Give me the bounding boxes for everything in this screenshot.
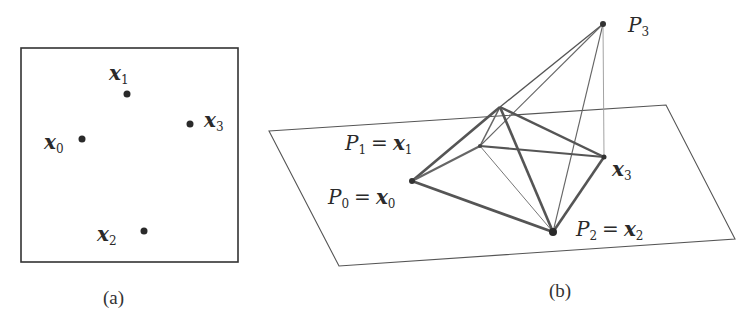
point-x0 <box>79 136 86 143</box>
edge-P3-Q <box>500 24 603 107</box>
edge-P3-P2 <box>553 24 603 232</box>
panel-a-box <box>21 48 238 262</box>
panel-b: P3 P1=x1 P0=x0 P2=x2 x3 (b) <box>269 13 735 302</box>
label-P3: P3 <box>627 13 649 39</box>
label-x2: x2 <box>96 222 117 248</box>
vertex-P0 <box>409 178 415 184</box>
caption-b: (b) <box>549 280 571 302</box>
label-x3-b: x3 <box>611 157 632 183</box>
point-x1 <box>124 91 131 98</box>
edge-Q-P2 <box>500 107 553 232</box>
label-x1: x1 <box>108 61 129 87</box>
point-x2 <box>141 228 148 235</box>
vertex-x3 <box>602 155 607 160</box>
vertex-P2 <box>549 228 557 236</box>
label-x0: x0 <box>43 130 64 156</box>
edge-P1-Q <box>480 107 500 146</box>
label-P0-eq-x0: P0=x0 <box>327 185 395 211</box>
vertex-P3 <box>600 21 606 27</box>
caption-a: (a) <box>103 287 124 309</box>
edge-P3-x3 <box>603 24 604 157</box>
edge-P0-Q <box>412 107 500 181</box>
figure: x1 x3 x0 x2 (a) P3 P1=x1 P0=x0 <box>0 0 749 327</box>
point-x3 <box>187 121 194 128</box>
label-P2-eq-x2: P2=x2 <box>575 217 643 243</box>
label-P1-eq-x1: P1=x1 <box>344 131 412 157</box>
vertex-P1 <box>478 144 482 148</box>
panel-a: x1 x3 x0 x2 (a) <box>21 48 238 309</box>
label-x3: x3 <box>203 108 224 134</box>
